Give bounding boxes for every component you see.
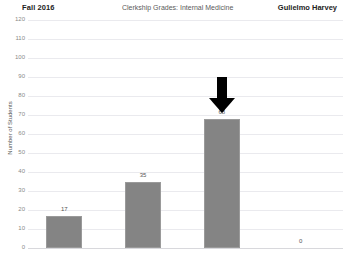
bar-value-label-1: 35: [115, 172, 171, 178]
page-title: Clerkship Grades: Internal Medicine: [122, 4, 233, 11]
bar-0[interactable]: [46, 216, 82, 248]
y-tick-label-80: 80: [0, 92, 25, 98]
y-tick-label-90: 90: [0, 73, 25, 79]
arrow-head: [209, 98, 235, 113]
chart-bars: 1735680: [28, 17, 343, 259]
clerkship-grades-chart-page: Fall 2016 Clerkship Grades: Internal Med…: [0, 0, 343, 259]
bar-2[interactable]: [204, 119, 240, 248]
y-tick-label-0: 0: [0, 244, 25, 250]
y-tick-label-70: 70: [0, 111, 25, 117]
user-name-label: Gulielmo Harvey: [278, 3, 337, 12]
annotation-down-arrow-icon: [209, 77, 235, 113]
bar-value-label-3: 0: [273, 238, 329, 244]
chart-plot-area: Number of Students 010203040506070809010…: [0, 17, 343, 259]
y-tick-label-120: 120: [0, 16, 25, 22]
y-tick-label-30: 30: [0, 187, 25, 193]
bar-1[interactable]: [125, 182, 161, 249]
page-header: Fall 2016 Clerkship Grades: Internal Med…: [0, 0, 343, 17]
y-tick-label-40: 40: [0, 168, 25, 174]
y-tick-label-110: 110: [0, 35, 25, 41]
y-tick-label-10: 10: [0, 225, 25, 231]
y-tick-label-60: 60: [0, 130, 25, 136]
term-label: Fall 2016: [22, 3, 55, 12]
y-tick-label-50: 50: [0, 149, 25, 155]
arrow-shaft: [217, 77, 227, 99]
bar-value-label-0: 17: [36, 206, 92, 212]
y-tick-label-20: 20: [0, 206, 25, 212]
y-tick-label-100: 100: [0, 54, 25, 60]
